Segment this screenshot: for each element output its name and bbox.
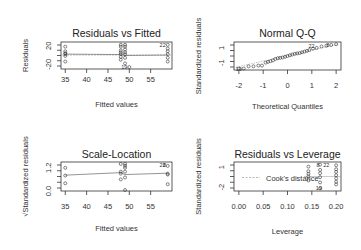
- svg-text:2: 2: [334, 81, 338, 90]
- svg-text:0: 0: [285, 81, 289, 90]
- svg-text:40: 40: [82, 202, 90, 211]
- svg-text:-20: -20: [44, 59, 53, 70]
- point-label: 8: [316, 162, 319, 168]
- y-axis: -21: [217, 165, 234, 190]
- y-axis-label: Residuals: [21, 39, 30, 72]
- y-axis-label: Standardized residuals: [194, 138, 203, 215]
- data-points: [64, 43, 169, 68]
- svg-text:35: 35: [61, 202, 69, 211]
- svg-text:45: 45: [104, 75, 112, 84]
- plot-title: Residuals vs Fitted: [72, 27, 161, 39]
- svg-text:0.20: 0.20: [329, 202, 344, 211]
- point-label: 8: [163, 162, 166, 168]
- svg-text:40: 40: [82, 75, 90, 84]
- svg-text:1.2: 1.2: [44, 163, 53, 173]
- svg-text:0.05: 0.05: [256, 202, 271, 211]
- y-axis-label: Standardized residuals: [194, 18, 203, 95]
- svg-text:1: 1: [217, 165, 226, 169]
- svg-text:1: 1: [217, 46, 226, 50]
- x-axis-label: Theoretical Quantiles: [252, 102, 323, 111]
- svg-text:50: 50: [125, 202, 133, 211]
- x-axis: -2-1012: [236, 70, 339, 90]
- svg-text:-1: -1: [260, 81, 267, 90]
- svg-text:45: 45: [104, 202, 112, 211]
- point-label: 19: [236, 66, 242, 72]
- residuals-vs-fitted-panel: Residuals vs FittedFitted valuesResidual…: [21, 27, 172, 109]
- normal-qq-panel: Normal Q-QTheoretical QuantilesStandardi…: [194, 18, 341, 111]
- svg-text:1: 1: [310, 81, 314, 90]
- x-axis: 0.000.050.100.150.20: [232, 191, 344, 211]
- plot-title: Normal Q-Q: [259, 27, 316, 39]
- diagnostic-plots: Residuals vs FittedFitted valuesResidual…: [0, 0, 361, 250]
- point-label: 19: [316, 185, 322, 191]
- point-label: 22: [309, 43, 315, 49]
- point-label: 22: [323, 162, 329, 168]
- y-axis: -2020: [44, 42, 61, 70]
- svg-text:0.10: 0.10: [280, 202, 295, 211]
- svg-text:0.15: 0.15: [305, 202, 320, 211]
- svg-text:0.00: 0.00: [232, 202, 247, 211]
- svg-text:55: 55: [146, 202, 154, 211]
- scale-location-panel: Scale-LocationFitted values√Standardized…: [21, 136, 172, 233]
- point-label: 22: [160, 42, 166, 48]
- x-axis-label: Fitted values: [95, 224, 138, 233]
- x-axis-label: Fitted values: [95, 100, 138, 109]
- svg-text:0.0: 0.0: [44, 186, 53, 196]
- plot-title: Residuals vs Leverage: [234, 148, 340, 160]
- y-axis: 0.01.2: [44, 163, 61, 197]
- data-points: [237, 43, 337, 70]
- y-axis: -11: [217, 45, 234, 67]
- point-label: 19: [121, 64, 127, 70]
- x-axis: 3540455055: [61, 191, 155, 211]
- svg-text:55: 55: [146, 75, 154, 84]
- svg-text:20: 20: [44, 42, 53, 50]
- svg-text:-2: -2: [217, 184, 226, 191]
- svg-text:-1: -1: [217, 59, 226, 66]
- plot-title: Scale-Location: [82, 148, 152, 160]
- legend-cooks-distance: Cook's distance: [266, 174, 319, 183]
- y-axis-label: √Standardized residuals: [21, 136, 30, 217]
- svg-text:-2: -2: [236, 81, 243, 90]
- x-axis: 3540455055: [61, 69, 155, 84]
- plot-frame: [61, 162, 172, 191]
- residuals-vs-leverage-panel: Residuals vs LeverageLeverageStandardize…: [194, 138, 343, 236]
- data-points: [64, 162, 169, 191]
- svg-text:50: 50: [125, 75, 133, 84]
- point-label: 8: [326, 42, 329, 48]
- x-axis-label: Leverage: [272, 227, 303, 236]
- svg-text:35: 35: [61, 75, 69, 84]
